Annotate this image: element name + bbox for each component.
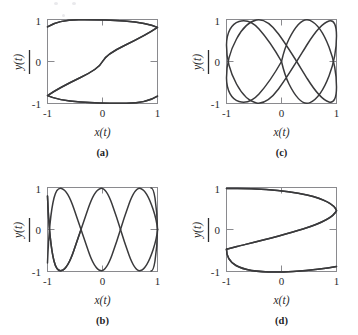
- panel-d-ytick-bottom: -1: [211, 266, 220, 278]
- panel-a-ytick-mid: 0: [36, 56, 42, 68]
- panel-b-plot: 1 0 -1 -1 0 1 x(t) y(t) (b): [0, 168, 179, 335]
- panel-d-labels: 1 0 -1 -1 0 1 x(t) y(t) (d): [191, 183, 339, 328]
- panel-a-xtick-left: -1: [43, 107, 52, 119]
- panel-d-caption: (d): [275, 315, 288, 327]
- panel-d-ytick-top: 1: [215, 183, 221, 195]
- panel-c-plot: 1 0 -1 -1 0 1 x(t) y(t) (c): [179, 0, 358, 167]
- panel-b-ylabel: y(t): [12, 222, 25, 239]
- panel-b-caption: (b): [96, 315, 109, 327]
- panel-a-curve: [48, 20, 158, 103]
- panel-a-caption: (a): [96, 147, 109, 159]
- panel-b-labels: 1 0 -1 -1 0 1 x(t) y(t) (b): [12, 183, 160, 328]
- panel-b-ytick-bottom: -1: [32, 266, 41, 278]
- panel-d-xlabel: x(t): [273, 294, 290, 307]
- panel-c-caption: (c): [276, 147, 288, 159]
- panel-d-axes: [227, 188, 337, 272]
- panel-a-xtick-mid: 0: [100, 107, 106, 119]
- panel-d-ylabel: y(t): [191, 222, 204, 239]
- panel-a-xlabel: x(t): [94, 126, 111, 139]
- panel-a-ytick-bottom: -1: [32, 98, 41, 110]
- panel-d-plot: 1 0 -1 -1 0 1 x(t) y(t) (d): [179, 168, 358, 335]
- panel-b: 1 0 -1 -1 0 1 x(t) y(t) (b): [0, 168, 179, 335]
- panel-b-xlabel: x(t): [94, 294, 111, 307]
- panel-d-xtick-right: 1: [334, 275, 340, 287]
- panel-c-xlabel: x(t): [273, 126, 290, 139]
- panel-c-xtick-left: -1: [222, 107, 231, 119]
- panel-b-xtick-mid: 0: [100, 275, 106, 287]
- panel-b-axes: [48, 188, 158, 272]
- panel-b-ytick-top: 1: [36, 183, 42, 195]
- panel-b-curve: [48, 188, 158, 271]
- panel-a-xtick-right: 1: [155, 107, 161, 119]
- panel-b-xtick-left: -1: [43, 275, 52, 287]
- lissajous-figure: 1 0 -1 -1 0 1 x(t) y(t) (a): [0, 0, 358, 335]
- panel-a: 1 0 -1 -1 0 1 x(t) y(t) (a): [0, 0, 179, 167]
- panel-c-ytick-bottom: -1: [211, 98, 220, 110]
- panel-a-plot: 1 0 -1 -1 0 1 x(t) y(t) (a): [0, 0, 179, 167]
- panel-c-xtick-mid: 0: [279, 107, 285, 119]
- panel-d-curve: [226, 188, 336, 272]
- panel-c: 1 0 -1 -1 0 1 x(t) y(t) (c): [179, 0, 358, 167]
- panel-a-ytick-top: 1: [36, 15, 42, 27]
- panel-c-ytick-top: 1: [215, 15, 221, 27]
- panel-a-ylabel: y(t): [12, 54, 25, 71]
- panel-c-ytick-mid: 0: [215, 56, 221, 68]
- panel-c-xtick-right: 1: [334, 107, 340, 119]
- panel-b-xtick-right: 1: [155, 275, 161, 287]
- panel-c-ylabel: y(t): [191, 54, 204, 71]
- panel-d-xtick-mid: 0: [279, 275, 285, 287]
- panel-b-ytick-mid: 0: [36, 224, 42, 236]
- panel-d-xtick-left: -1: [222, 275, 231, 287]
- panel-d-ytick-mid: 0: [215, 224, 221, 236]
- panel-d: 1 0 -1 -1 0 1 x(t) y(t) (d): [179, 168, 358, 335]
- panel-c-curve: [226, 20, 336, 103]
- panel-a-labels: 1 0 -1 -1 0 1 x(t) y(t) (a): [12, 15, 160, 160]
